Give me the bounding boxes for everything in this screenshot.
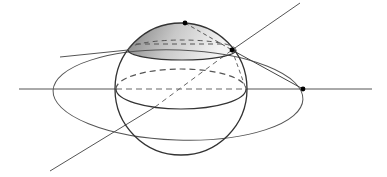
diagonal-line-upper xyxy=(232,3,300,50)
point-cap-edge-right xyxy=(230,48,235,53)
point-ellipse-right-vertex xyxy=(301,87,306,92)
sphere-cap-diagram xyxy=(0,0,387,177)
equator-front xyxy=(116,89,246,109)
diagonal-line-lower xyxy=(50,107,155,171)
point-cap-apex xyxy=(183,21,188,26)
equator-back xyxy=(116,69,246,89)
